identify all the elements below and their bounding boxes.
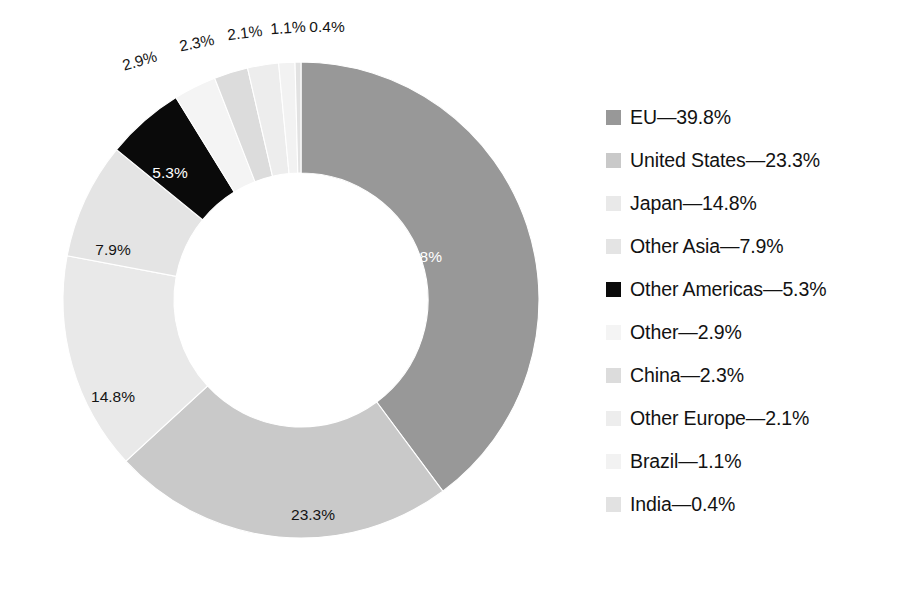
legend-label: EU—39.8% (630, 106, 731, 129)
slice-value-label: 0.4% (309, 18, 345, 35)
donut-chart-canvas: 39.8%23.3%14.8%7.9%5.3%2.9%2.3%2.1%1.1%0… (0, 0, 600, 597)
legend-swatch-icon (606, 110, 621, 125)
legend-label: Japan—14.8% (630, 192, 757, 215)
legend-swatch-icon (606, 196, 621, 211)
legend-label: China—2.3% (630, 364, 744, 387)
legend-label: Brazil—1.1% (630, 450, 742, 473)
legend-label: Other Americas—5.3% (630, 278, 826, 301)
chart-legend: EU—39.8%United States—23.3%Japan—14.8%Ot… (606, 96, 918, 526)
legend-swatch-icon (606, 325, 621, 340)
legend-label: India—0.4% (630, 493, 735, 516)
slice-value-label: 5.3% (152, 164, 188, 181)
legend-label: Other Europe—2.1% (630, 407, 809, 430)
slice-value-label: 2.1% (226, 22, 263, 43)
legend-item[interactable]: United States—23.3% (606, 139, 918, 182)
legend-swatch-icon (606, 153, 621, 168)
slice-value-label: 39.8% (398, 248, 442, 265)
slice-value-label: 1.1% (270, 18, 307, 37)
slice-value-label: 2.9% (120, 48, 159, 74)
donut-chart: 39.8%23.3%14.8%7.9%5.3%2.9%2.3%2.1%1.1%0… (0, 0, 923, 597)
legend-item[interactable]: Japan—14.8% (606, 182, 918, 225)
legend-item[interactable]: China—2.3% (606, 354, 918, 397)
legend-item[interactable]: Other—2.9% (606, 311, 918, 354)
legend-swatch-icon (606, 239, 621, 254)
slice-value-label: 7.9% (95, 241, 131, 258)
legend-swatch-icon (606, 454, 621, 469)
legend-swatch-icon (606, 282, 621, 297)
donut-slice-group (63, 62, 539, 538)
legend-item[interactable]: Other Europe—2.1% (606, 397, 918, 440)
legend-swatch-icon (606, 411, 621, 426)
legend-label: United States—23.3% (630, 149, 820, 172)
legend-swatch-icon (606, 497, 621, 512)
slice-value-label: 14.8% (91, 388, 135, 405)
legend-item[interactable]: Brazil—1.1% (606, 440, 918, 483)
legend-item[interactable]: Other Asia—7.9% (606, 225, 918, 268)
legend-swatch-icon (606, 368, 621, 383)
legend-item[interactable]: Other Americas—5.3% (606, 268, 918, 311)
slice-value-label: 23.3% (291, 506, 335, 523)
legend-label: Other Asia—7.9% (630, 235, 784, 258)
legend-item[interactable]: EU—39.8% (606, 96, 918, 139)
legend-label: Other—2.9% (630, 321, 742, 344)
legend-item[interactable]: India—0.4% (606, 483, 918, 526)
slice-value-label: 2.3% (178, 31, 216, 54)
